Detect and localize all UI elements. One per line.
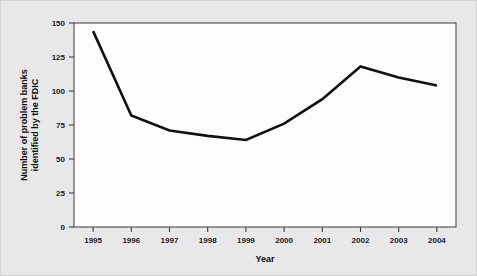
y-tick-label: 50 bbox=[56, 155, 65, 164]
x-tick-label: 1999 bbox=[237, 236, 255, 245]
x-axis-ticks bbox=[93, 227, 437, 232]
x-tick-label: 1997 bbox=[161, 236, 179, 245]
y-axis-ticks bbox=[69, 23, 74, 227]
figure-container: 0255075100125150 19951996199719981999200… bbox=[0, 0, 477, 276]
y-tick-label: 75 bbox=[56, 121, 65, 130]
y-tick-label: 25 bbox=[56, 189, 65, 198]
x-tick-label: 2003 bbox=[390, 236, 408, 245]
x-axis-title: Year bbox=[255, 254, 275, 264]
y-axis-title-line1: Number of problem banks bbox=[19, 69, 29, 181]
plot-area-background bbox=[74, 23, 456, 227]
x-tick-label: 2002 bbox=[352, 236, 370, 245]
line-chart: 0255075100125150 19951996199719981999200… bbox=[1, 1, 477, 276]
y-tick-label: 0 bbox=[61, 223, 66, 232]
x-tick-label: 1995 bbox=[84, 236, 102, 245]
x-axis-tick-labels: 1995199619971998199920002001200220032004 bbox=[84, 236, 446, 245]
y-tick-label: 150 bbox=[52, 19, 66, 28]
x-tick-label: 2001 bbox=[313, 236, 331, 245]
y-tick-label: 125 bbox=[52, 53, 66, 62]
y-tick-label: 100 bbox=[52, 87, 66, 96]
x-tick-label: 1996 bbox=[122, 236, 140, 245]
x-tick-label: 2004 bbox=[428, 236, 446, 245]
y-axis-tick-labels: 0255075100125150 bbox=[52, 19, 66, 232]
x-tick-label: 2000 bbox=[275, 236, 293, 245]
y-axis-title-line2: identified by the FDIC bbox=[30, 78, 40, 171]
x-tick-label: 1998 bbox=[199, 236, 217, 245]
